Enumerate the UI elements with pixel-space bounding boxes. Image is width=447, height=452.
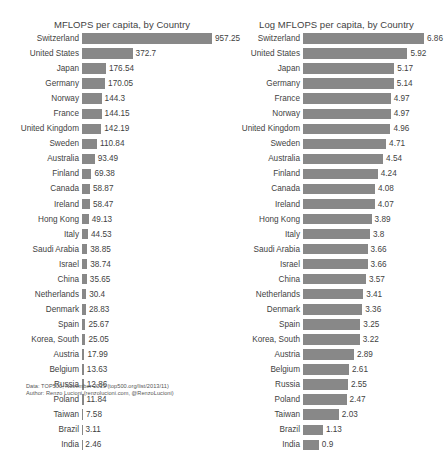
bar-value-label: 3.11 — [82, 422, 100, 437]
bar-area: 4.71 — [303, 136, 433, 151]
bar-row: France4.97 — [216, 91, 437, 106]
bar-track: 35.65 — [82, 272, 212, 287]
bar-value-label: 3.25 — [360, 317, 379, 332]
bar-value-label: 4.07 — [375, 197, 394, 212]
bar-category-label: Norway — [216, 106, 300, 121]
bar-track: 49.13 — [82, 212, 212, 227]
bar-value-label: 44.53 — [88, 227, 112, 242]
bar-category-label: Canada — [216, 181, 300, 196]
bar-area: 49.13 — [82, 212, 212, 227]
bar-track: 6.86 — [303, 31, 433, 46]
bar-value-label: 3.36 — [362, 302, 381, 317]
bar-track: 5.92 — [303, 46, 433, 61]
bar-value-label: 2.46 — [82, 437, 101, 452]
bar-value-label: 2.61 — [349, 362, 368, 377]
bar-area: 3.57 — [303, 272, 433, 287]
bar-category-label: Korea, South — [216, 332, 300, 347]
bar-row: Hong Kong3.89 — [216, 212, 437, 227]
bar-area: 44.53 — [82, 227, 212, 242]
bar-track: 38.74 — [82, 257, 212, 272]
bar-track: 144.15 — [82, 106, 212, 121]
bar-area: 17.99 — [82, 347, 212, 362]
bar-row: Ireland4.07 — [216, 197, 437, 212]
bar-value-label: 25.67 — [85, 317, 109, 332]
chart-panel-mflops-per-capita: MFLOPS per capita, by Country Switzerlan… — [0, 0, 216, 380]
bar-row: Spain25.67 — [0, 317, 216, 332]
bar-area: 2.46 — [82, 437, 212, 452]
bar-area: 4.24 — [303, 166, 433, 181]
bar-value-label: 144.3 — [102, 91, 126, 106]
bar — [82, 109, 102, 119]
bar-area: 3.41 — [303, 287, 433, 302]
bar-row: Korea, South25.05 — [0, 332, 216, 347]
bar-area: 4.08 — [303, 181, 433, 196]
bar — [82, 48, 133, 58]
bar-area: 2.61 — [303, 362, 433, 377]
bar-row: Austria2.89 — [216, 347, 437, 362]
bar-row: China35.65 — [0, 272, 216, 287]
bar-track: 3.8 — [303, 227, 433, 242]
bar-track: 3.66 — [303, 257, 433, 272]
bar-row: India0.9 — [216, 437, 437, 452]
bar-category-label: Netherlands — [216, 287, 300, 302]
bar-value-label: 30.4 — [86, 287, 105, 302]
bar-area: 4.96 — [303, 121, 433, 136]
bar-row: United Kingdom142.19 — [0, 121, 216, 136]
bar-row: India2.46 — [0, 437, 216, 452]
bar-area: 58.87 — [82, 181, 212, 196]
bar-category-label: Germany — [216, 76, 300, 91]
bar-value-label: 35.65 — [87, 272, 111, 287]
bar-value-label: 5.14 — [394, 76, 413, 91]
footer-data-source: Data: TOP500, November 2013 (top500.org/… — [26, 383, 174, 390]
bar-area: 3.36 — [303, 302, 433, 317]
bar — [303, 364, 349, 374]
bar-value-label: 372.7 — [133, 46, 157, 61]
bar-track: 2.47 — [303, 392, 433, 407]
bar-track: 28.83 — [82, 302, 212, 317]
bar-track: 170.05 — [82, 76, 212, 91]
bar-track: 5.14 — [303, 76, 433, 91]
bar-value-label: 4.08 — [375, 181, 394, 196]
bar — [303, 93, 391, 103]
bar-value-label: 110.84 — [97, 136, 124, 151]
bar-row: Belgium13.63 — [0, 362, 216, 377]
bar-value-label: 3.66 — [368, 257, 387, 272]
bar-value-label: 38.85 — [87, 242, 111, 257]
bar-category-label: Saudi Arabia — [216, 242, 300, 257]
bar-value-label: 3.8 — [370, 227, 384, 242]
bar — [303, 48, 407, 58]
bar-row: Denmark3.36 — [216, 302, 437, 317]
bar-row: Germany5.14 — [216, 76, 437, 91]
bar-track: 2.46 — [82, 437, 212, 452]
bar-value-label: 3.89 — [372, 212, 391, 227]
bar-area: 5.14 — [303, 76, 433, 91]
bar-value-label: 58.87 — [90, 181, 114, 196]
bar-value-label: 25.05 — [85, 332, 109, 347]
bar-area: 2.03 — [303, 407, 433, 422]
bar-category-label: China — [0, 272, 79, 287]
bar-track: 30.4 — [82, 287, 212, 302]
bar-category-label: Italy — [0, 227, 79, 242]
bar-row: Netherlands3.41 — [216, 287, 437, 302]
bar-row: United States372.7 — [0, 46, 216, 61]
bar-track: 25.67 — [82, 317, 212, 332]
bar-track: 4.24 — [303, 166, 433, 181]
bar-track: 3.57 — [303, 272, 433, 287]
bar-row: Ireland58.47 — [0, 197, 216, 212]
bar-value-label: 17.99 — [84, 347, 108, 362]
bar-track: 3.66 — [303, 242, 433, 257]
bar-row: Brazil1.13 — [216, 422, 437, 437]
bar-area: 6.86 — [303, 31, 433, 46]
bar — [303, 214, 372, 224]
bar-area: 38.85 — [82, 242, 212, 257]
bar — [303, 334, 360, 344]
bar-category-label: Brazil — [216, 422, 300, 437]
bar-value-label: 4.96 — [390, 121, 409, 136]
bar-category-label: Poland — [216, 392, 300, 407]
bar-row: Taiwan2.03 — [216, 407, 437, 422]
bar-row: Japan5.17 — [216, 61, 437, 76]
bar-area: 3.89 — [303, 212, 433, 227]
bar — [303, 78, 394, 88]
bar-track: 4.96 — [303, 121, 433, 136]
